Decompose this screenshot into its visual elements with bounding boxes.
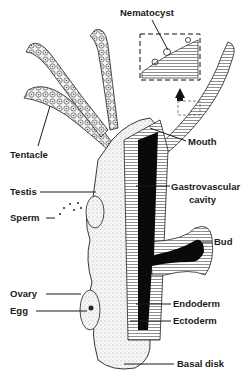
nematocyst-inset <box>140 34 200 115</box>
label-mouth: Mouth <box>188 136 217 147</box>
egg-shape <box>89 306 94 311</box>
label-tentacle: Tentacle <box>10 149 48 160</box>
label-ovary: Ovary <box>10 288 38 299</box>
testis-shape <box>86 196 104 228</box>
label-gastrovascular-line2: cavity <box>189 194 217 205</box>
label-sperm: Sperm <box>10 212 40 223</box>
label-endoderm: Endoderm <box>173 298 220 309</box>
label-bud: Bud <box>214 236 233 247</box>
label-gastrovascular-line1: Gastrovascular <box>171 181 240 192</box>
label-ectoderm: Ectoderm <box>173 315 217 326</box>
hydra-diagram: Nematocyst Tentacle Mouth Testis Gastrov… <box>0 0 245 381</box>
label-basal-disk: Basal disk <box>177 358 225 369</box>
label-nematocyst: Nematocyst <box>120 7 175 18</box>
label-egg: Egg <box>10 305 28 316</box>
label-testis: Testis <box>10 186 37 197</box>
hydra-body <box>59 118 213 369</box>
sperm-dots <box>59 202 82 215</box>
